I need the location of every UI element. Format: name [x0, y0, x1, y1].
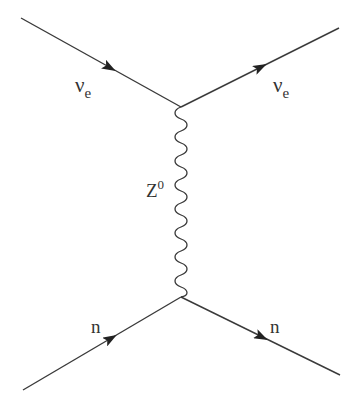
incoming-neutrino-line	[21, 18, 181, 107]
feynman-diagram: νe νe Z0 n n	[0, 0, 361, 406]
outgoing-neutrino-label: νe	[273, 73, 290, 101]
outgoing-neutrino-line	[181, 28, 339, 107]
incoming-neutrino-label: νe	[75, 73, 92, 101]
outgoing-neutron-line	[181, 297, 340, 375]
incoming-neutron-label: n	[91, 316, 101, 337]
z-boson-label: Z0	[146, 177, 164, 201]
incoming-neutron-line	[23, 297, 181, 390]
z-boson-propagator	[175, 107, 187, 297]
outgoing-neutron-label: n	[270, 316, 280, 337]
